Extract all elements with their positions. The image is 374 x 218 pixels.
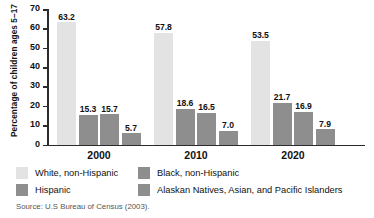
- bar-2020-white-non-hispanic[interactable]: 53.5: [251, 41, 270, 145]
- bar-value-label: 7.9: [319, 120, 331, 129]
- legend-swatch-icon: [16, 167, 28, 179]
- y-tick-60: 60: [43, 28, 47, 30]
- legend-item-2[interactable]: Hispanic: [16, 184, 138, 196]
- bar-2000-hispanic[interactable]: 15.7: [100, 114, 119, 144]
- y-tick-label: 70: [30, 3, 40, 13]
- bar-value-label: 18.6: [177, 99, 194, 108]
- y-tick-0: 0: [43, 145, 47, 147]
- bar-2020-alaskan-asian-pacific[interactable]: 7.9: [316, 129, 335, 144]
- y-tick-20: 20: [43, 106, 47, 108]
- legend-label: Hispanic: [35, 185, 71, 195]
- source-note: Source: U.S Bureau of Census (2003).: [16, 202, 149, 211]
- bar-group-2010: 57.818.616.57.02010: [154, 9, 238, 145]
- bar-2000-black-non-hispanic[interactable]: 15.3: [79, 115, 98, 145]
- y-tick-label: 0: [35, 139, 40, 149]
- bar-2010-alaskan-asian-pacific[interactable]: 7.0: [219, 131, 238, 145]
- bar-value-label: 15.7: [101, 105, 118, 114]
- x-axis-label-2010: 2010: [154, 149, 238, 161]
- y-tick-label: 40: [30, 61, 40, 71]
- y-tick-50: 50: [43, 48, 47, 50]
- legend-label: Black, non-Hispanic: [157, 168, 239, 178]
- bar-2020-black-non-hispanic[interactable]: 21.7: [273, 103, 292, 145]
- chart-legend: White, non-HispanicBlack, non-HispanicHi…: [16, 164, 364, 198]
- y-tick-label: 10: [30, 119, 40, 129]
- y-tick-label: 30: [30, 80, 40, 90]
- bar-2010-hispanic[interactable]: 16.5: [197, 113, 216, 145]
- legend-label: White, non-Hispanic: [35, 168, 118, 178]
- legend-row: HispanicAlaskan Natives, Asian, and Paci…: [16, 181, 364, 198]
- bar-value-label: 15.3: [80, 105, 97, 114]
- legend-item-1[interactable]: Black, non-Hispanic: [138, 167, 239, 179]
- bar-group-2020: 53.521.716.97.92020: [251, 9, 335, 145]
- x-axis-line: [47, 145, 365, 147]
- x-axis-label-2020: 2020: [251, 149, 335, 161]
- legend-item-3[interactable]: Alaskan Natives, Asian, and Pacific Isla…: [138, 184, 343, 196]
- bar-value-label: 16.9: [295, 102, 312, 111]
- bar-value-label: 21.7: [274, 93, 291, 102]
- bar-value-label: 57.8: [155, 23, 172, 32]
- legend-label: Alaskan Natives, Asian, and Pacific Isla…: [157, 185, 343, 195]
- y-axis-title: Percentage of children ages 5–17: [10, 1, 19, 141]
- legend-swatch-icon: [16, 184, 28, 196]
- bar-2000-alaskan-asian-pacific[interactable]: 5.7: [122, 133, 141, 144]
- legend-row: White, non-HispanicBlack, non-Hispanic: [16, 164, 364, 181]
- bar-2010-white-non-hispanic[interactable]: 57.8: [154, 33, 173, 145]
- bar-2010-black-non-hispanic[interactable]: 18.6: [176, 109, 195, 145]
- bar-chart-figure: Percentage of children ages 5–17 0102030…: [0, 0, 374, 218]
- y-tick-70: 70: [43, 9, 47, 11]
- y-tick-30: 30: [43, 86, 47, 88]
- y-tick-label: 20: [30, 100, 40, 110]
- bar-value-label: 63.2: [58, 13, 75, 22]
- bar-value-label: 7.0: [222, 121, 234, 130]
- legend-swatch-icon: [138, 167, 150, 179]
- y-tick-40: 40: [43, 67, 47, 69]
- bar-2000-white-non-hispanic[interactable]: 63.2: [57, 22, 76, 144]
- legend-item-0[interactable]: White, non-Hispanic: [16, 167, 138, 179]
- y-axis-line: [47, 9, 49, 146]
- bar-value-label: 53.5: [252, 31, 269, 40]
- bar-value-label: 16.5: [198, 103, 215, 112]
- bar-value-label: 5.7: [125, 124, 137, 133]
- legend-swatch-icon: [138, 184, 150, 196]
- bar-2020-hispanic[interactable]: 16.9: [294, 112, 313, 145]
- y-tick-10: 10: [43, 125, 47, 127]
- x-axis-label-2000: 2000: [57, 149, 141, 161]
- bar-group-2000: 63.215.315.75.72000: [57, 9, 141, 145]
- y-tick-label: 60: [30, 22, 40, 32]
- plot-area: 010203040506070 63.215.315.75.7200057.81…: [47, 9, 365, 146]
- y-tick-label: 50: [30, 42, 40, 52]
